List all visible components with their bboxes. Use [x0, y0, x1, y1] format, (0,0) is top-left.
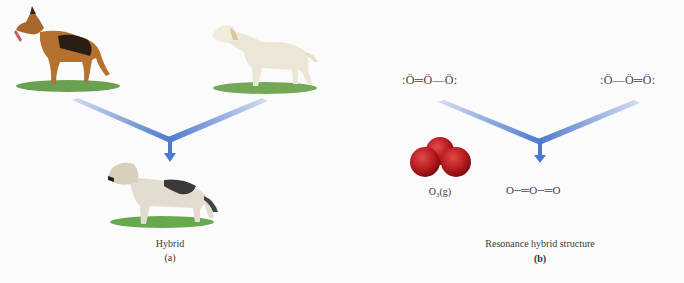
ozone-formula-label: O₃(g)	[410, 186, 470, 197]
panel-a-letter: (a)	[120, 252, 220, 263]
hybrid-dog-illustration	[108, 163, 218, 228]
german-shepherd-illustration	[14, 6, 120, 92]
hybrid-caption: Hybrid	[120, 238, 220, 249]
merge-arrow-a	[72, 98, 268, 162]
resonance-structure-left: :Ö═Ö—Ö:	[402, 73, 457, 88]
labrador-illustration	[212, 26, 318, 95]
resonance-hybrid-structure: O┄═O┄═O	[506, 184, 561, 197]
resonance-hybrid-caption: Resonance hybrid structure	[460, 238, 620, 249]
ozone-molecule-model	[410, 137, 471, 177]
panel-b-letter: (b)	[460, 253, 620, 264]
resonance-structure-right: :Ö—Ö═Ö:	[600, 73, 655, 88]
